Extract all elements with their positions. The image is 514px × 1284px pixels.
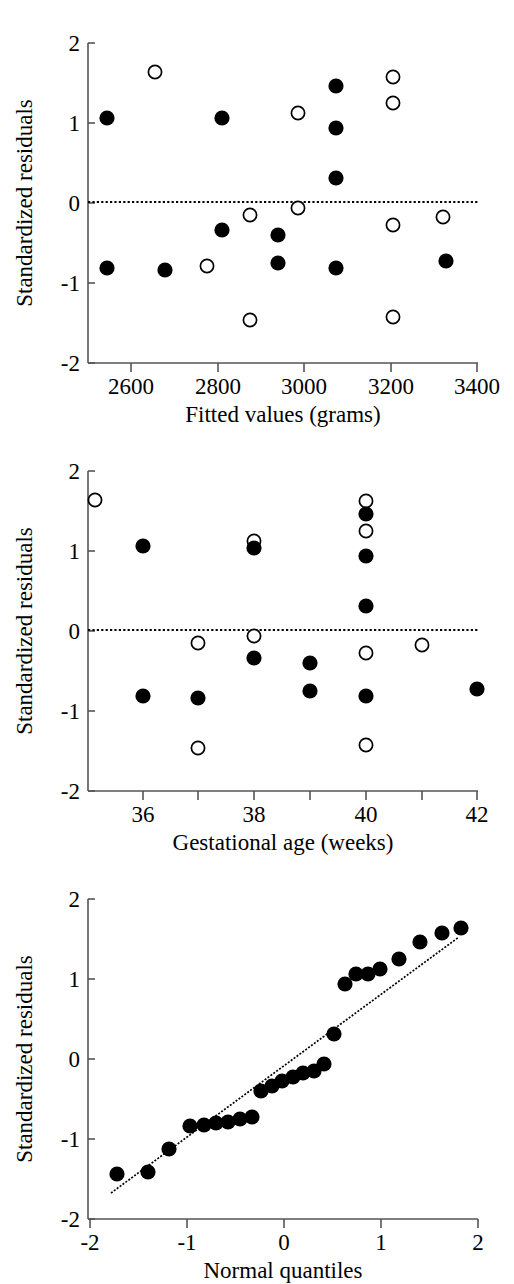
- panel-residuals-vs-gestational-age: 2 1 0 -1 -2 36 38 40 42 Gestational age …: [0, 428, 514, 856]
- p3-x-ticks: [90, 1219, 478, 1228]
- x-tick-label: 2600: [108, 374, 154, 399]
- data-point-open: [88, 493, 101, 506]
- y-tick-label: -2: [61, 1207, 80, 1232]
- y-tick-label: 1: [69, 967, 81, 992]
- data-point-filled: [270, 255, 285, 270]
- data-point-filled: [328, 170, 343, 185]
- p1-x-axis-title: Fitted values (grams): [185, 402, 380, 427]
- data-point-filled: [246, 650, 261, 665]
- x-tick-label: 0: [278, 1230, 290, 1255]
- data-point-filled: [270, 227, 285, 242]
- panel-normal-qq-plot: 2 1 0 -1 -2 -2 -1 0 1 2 Normal quantiles…: [0, 856, 514, 1284]
- data-point-open: [243, 313, 256, 326]
- y-tick-label: -1: [61, 1127, 80, 1152]
- x-tick-label: -2: [80, 1230, 99, 1255]
- data-point-filled: [135, 538, 150, 553]
- data-point-filled: [358, 506, 373, 521]
- data-point-open: [247, 629, 260, 642]
- y-tick-label: 1: [69, 539, 81, 564]
- data-point-filled: [358, 598, 373, 613]
- p3-points-filled: [109, 920, 468, 1181]
- figure-root: 2 1 0 -1 -2 2600 2800 3000 3200 3400 Fit…: [0, 0, 514, 1284]
- x-tick-label: 3000: [281, 374, 327, 399]
- y-tick-label: -1: [61, 699, 80, 724]
- y-tick-label: -2: [61, 779, 80, 804]
- p1-points-filled: [99, 78, 453, 277]
- data-point-filled: [214, 110, 229, 125]
- data-point-filled: [328, 260, 343, 275]
- p2-axes: [88, 471, 478, 800]
- p2-x-tick-labels: 36 38 40 42: [132, 802, 489, 827]
- y-tick-label: 1: [69, 111, 81, 136]
- data-point-filled: [157, 262, 172, 277]
- p2-y-axis-title: Standardized residuals: [12, 527, 37, 735]
- data-point-filled: [135, 688, 150, 703]
- x-tick-label: 3400: [454, 374, 500, 399]
- data-point-filled: [214, 222, 229, 237]
- p3-qq-reference-line: [111, 937, 459, 1193]
- y-tick-label: 2: [69, 887, 81, 912]
- data-point-filled: [358, 548, 373, 563]
- p2-x-ticks: [143, 791, 477, 800]
- x-tick-label: 3200: [368, 374, 414, 399]
- data-point-filled: [453, 920, 468, 935]
- data-point-filled: [328, 120, 343, 135]
- data-point-open: [291, 106, 304, 119]
- y-tick-label: 2: [69, 459, 81, 484]
- data-point-filled: [326, 1026, 341, 1041]
- data-point-filled: [438, 253, 453, 268]
- y-tick-label: 0: [69, 619, 81, 644]
- data-point-open: [243, 208, 256, 221]
- data-point-filled: [302, 655, 317, 670]
- data-point-open: [200, 259, 213, 272]
- data-point-filled: [469, 681, 484, 696]
- p2-y-tick-labels: 2 1 0 -1 -2: [61, 459, 80, 804]
- x-tick-label: 40: [355, 802, 378, 827]
- data-point-open: [359, 646, 372, 659]
- p1-axes: [88, 43, 478, 372]
- x-tick-label: 42: [466, 802, 489, 827]
- data-point-filled: [328, 78, 343, 93]
- data-point-filled: [140, 1164, 155, 1179]
- data-point-filled: [182, 1118, 197, 1133]
- p1-x-ticks: [131, 363, 477, 372]
- p3-y-tick-labels: 2 1 0 -1 -2: [61, 887, 80, 1232]
- y-tick-label: 0: [69, 1047, 81, 1072]
- data-point-open: [436, 210, 449, 223]
- data-point-open: [386, 310, 399, 323]
- panel-residuals-vs-fitted: 2 1 0 -1 -2 2600 2800 3000 3200 3400 Fit…: [0, 0, 514, 428]
- y-tick-label: 2: [69, 31, 81, 56]
- x-tick-label: 2: [472, 1230, 484, 1255]
- p2-points-open: [88, 493, 428, 754]
- data-point-open: [415, 638, 428, 651]
- data-point-filled: [99, 260, 114, 275]
- p3-x-tick-labels: -2 -1 0 1 2: [80, 1230, 483, 1255]
- data-point-filled: [246, 540, 261, 555]
- data-point-open: [386, 218, 399, 231]
- p3-y-ticks: [88, 899, 95, 1219]
- p3-x-axis-title: Normal quantiles: [203, 1258, 362, 1283]
- data-point-filled: [358, 688, 373, 703]
- data-point-open: [291, 201, 304, 214]
- data-point-open: [386, 70, 399, 83]
- data-point-open: [191, 741, 204, 754]
- x-tick-label: 36: [132, 802, 155, 827]
- p2-x-axis-title: Gestational age (weeks): [173, 830, 394, 855]
- data-point-open: [191, 636, 204, 649]
- p2-points-filled: [135, 506, 484, 705]
- data-point-open: [359, 524, 372, 537]
- p1-y-axis-title: Standardized residuals: [12, 99, 37, 307]
- data-point-filled: [109, 1166, 124, 1181]
- data-point-open: [359, 738, 372, 751]
- y-tick-label: -2: [61, 351, 80, 376]
- data-point-filled: [372, 961, 387, 976]
- data-point-filled: [161, 1141, 176, 1156]
- p3-y-axis-title: Standardized residuals: [12, 955, 37, 1163]
- p1-points-open: [148, 65, 449, 326]
- y-tick-label: -1: [61, 271, 80, 296]
- p1-x-tick-labels: 2600 2800 3000 3200 3400: [108, 374, 500, 399]
- x-tick-label: 1: [375, 1230, 387, 1255]
- data-point-filled: [244, 1109, 259, 1124]
- data-point-open: [386, 96, 399, 109]
- data-point-filled: [316, 1056, 331, 1071]
